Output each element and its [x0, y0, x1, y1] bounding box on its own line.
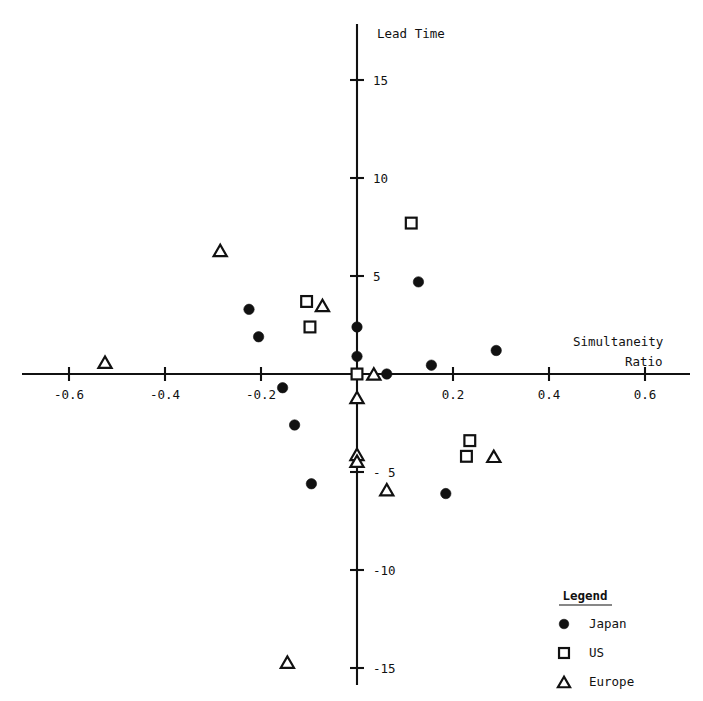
scatter-plot-figure: -0.6-0.4-0.20.20.40.6 15105- 5-10-15 Lea…: [0, 0, 703, 701]
data-point-japan: [382, 369, 392, 379]
data-point-japan: [253, 332, 263, 342]
x-tick-label: 0.4: [538, 387, 561, 402]
y-tick-label: 5: [373, 269, 381, 284]
data-point-europe: [316, 300, 329, 311]
legend-marker-europe: [558, 677, 570, 687]
x-tick-label: -0.2: [246, 387, 276, 402]
y-tick-label: 10: [373, 171, 388, 186]
y-tick-label: -10: [373, 563, 396, 578]
y-axis-title: Lead Time: [377, 26, 445, 41]
legend-marker-us: [559, 648, 569, 658]
data-point-europe: [214, 245, 227, 256]
legend-label-japan: Japan: [589, 616, 627, 631]
data-point-japan: [306, 479, 316, 489]
x-axis-title-line1: Simultaneity: [573, 334, 664, 349]
plot-canvas: -0.6-0.4-0.20.20.40.6 15105- 5-10-15 Lea…: [0, 0, 703, 701]
data-point-japan: [426, 360, 436, 370]
x-axis-title-line2: Ratio: [625, 354, 663, 369]
series-us: [301, 218, 475, 462]
x-tick-label: -0.6: [54, 387, 84, 402]
data-point-europe: [380, 484, 393, 495]
data-point-japan: [441, 488, 451, 498]
data-point-us: [305, 322, 316, 333]
data-point-europe: [350, 392, 363, 403]
y-tick-label: 15: [373, 73, 388, 88]
legend-entries: JapanUSEurope: [558, 616, 634, 689]
data-point-japan: [244, 304, 254, 314]
legend: Legend JapanUSEurope: [558, 588, 634, 689]
data-point-japan: [277, 383, 287, 393]
data-point-japan: [289, 420, 299, 430]
data-point-europe: [281, 656, 294, 667]
data-points-group: [98, 218, 501, 668]
y-tick-label: - 5: [373, 465, 396, 480]
data-point-us: [301, 296, 312, 307]
data-point-us: [461, 451, 472, 462]
data-point-japan: [491, 345, 501, 355]
x-tick-label: -0.4: [150, 387, 180, 402]
legend-label-europe: Europe: [589, 674, 634, 689]
data-point-europe: [98, 357, 111, 368]
legend-title: Legend: [562, 588, 607, 603]
data-point-us: [464, 435, 475, 446]
x-tick-label: 0.6: [634, 387, 657, 402]
data-point-japan: [352, 351, 362, 361]
data-point-europe: [487, 451, 500, 462]
series-europe: [98, 245, 500, 668]
y-tick-label: -15: [373, 661, 396, 676]
data-point-japan: [413, 277, 423, 287]
data-point-us: [352, 369, 363, 380]
legend-marker-japan: [559, 619, 569, 629]
data-point-japan: [352, 322, 362, 332]
x-tick-label: 0.2: [442, 387, 465, 402]
legend-label-us: US: [589, 645, 604, 660]
data-point-us: [406, 218, 417, 229]
